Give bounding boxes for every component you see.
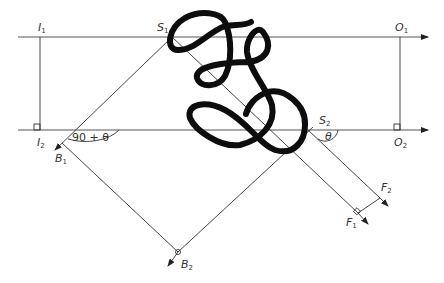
diagram-canvas: 90 + θ θ I1 I2 S1 S2 O1 O2 B1 B2 F1 F2 (0, 0, 444, 283)
angle-label-90-theta: 90 + θ (72, 131, 109, 144)
angle-label-theta: θ (325, 130, 332, 143)
f1-f2-connector (358, 198, 380, 213)
right-angle-mark-o2 (394, 124, 400, 130)
diagram-svg: 90 + θ θ I1 I2 S1 S2 O1 O2 B1 B2 F1 F2 (0, 0, 444, 283)
f2-arrow (380, 198, 388, 206)
right-angle-mark-f1 (353, 208, 360, 215)
label-s1: S1 (157, 21, 168, 35)
label-o1: O1 (395, 21, 408, 35)
label-f1: F1 (346, 216, 357, 230)
scribble-overlay (170, 13, 305, 151)
label-b2: B2 (181, 258, 193, 272)
label-b1: B1 (55, 152, 67, 166)
label-f2: F2 (381, 181, 392, 195)
right-angle-mark-i2 (34, 124, 40, 130)
label-s2: S2 (319, 114, 330, 128)
label-i2: I2 (37, 136, 45, 150)
f1-arrow (358, 213, 368, 224)
label-o2: O2 (394, 136, 407, 150)
label-i1: I1 (38, 21, 46, 35)
b1-to-b2-line (62, 143, 178, 252)
s2-to-f2-line (308, 130, 380, 198)
